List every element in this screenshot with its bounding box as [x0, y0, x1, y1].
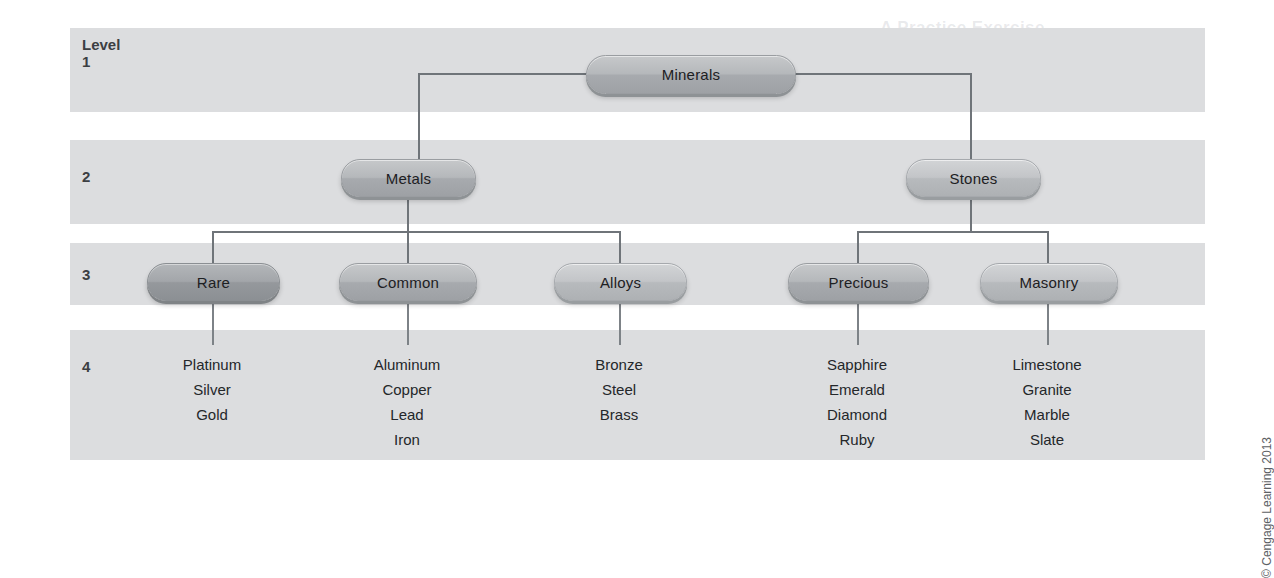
list-item: Bronze	[539, 352, 699, 377]
list-item: Marble	[967, 402, 1127, 427]
node-masonry[interactable]: Masonry	[980, 263, 1118, 301]
connector-stones-stem	[970, 196, 972, 232]
connector-metals-drop-alloys	[619, 231, 621, 264]
connector-precious-to-leaves	[857, 300, 859, 345]
node-common[interactable]: Common	[339, 263, 477, 301]
node-minerals[interactable]: Minerals	[586, 55, 796, 94]
list-item: Sapphire	[777, 352, 937, 377]
connector-alloys-to-leaves	[619, 300, 621, 345]
node-metals[interactable]: Metals	[341, 159, 476, 197]
list-item: Limestone	[967, 352, 1127, 377]
list-item: Diamond	[777, 402, 937, 427]
connector-root-right-horizontal	[794, 73, 972, 75]
node-stones[interactable]: Stones	[906, 159, 1041, 197]
list-item: Silver	[132, 377, 292, 402]
connector-stones-drop-precious	[857, 231, 859, 264]
leaf-list-masonry: Limestone Granite Marble Slate	[967, 352, 1127, 452]
list-item: Emerald	[777, 377, 937, 402]
copyright-credit: © Cengage Learning 2013	[1260, 437, 1274, 578]
level-label-1: Level 1	[82, 36, 120, 71]
connector-root-left-horizontal	[418, 73, 586, 75]
connector-masonry-to-leaves	[1047, 300, 1049, 345]
list-item: Aluminum	[327, 352, 487, 377]
list-item: Copper	[327, 377, 487, 402]
level-label-4: 4	[82, 358, 90, 375]
node-alloys[interactable]: Alloys	[554, 263, 687, 301]
level-label-3: 3	[82, 266, 90, 283]
connector-metals-drop-rare	[212, 231, 214, 264]
level-number-3: 3	[82, 266, 90, 283]
connector-metals-stem	[407, 196, 409, 232]
level-word: Level	[82, 36, 120, 53]
connector-metals-drop-common	[407, 231, 409, 264]
node-precious[interactable]: Precious	[788, 263, 929, 301]
connector-root-left-vertical	[418, 73, 420, 173]
list-item: Gold	[132, 402, 292, 427]
list-item: Granite	[967, 377, 1127, 402]
list-item: Brass	[539, 402, 699, 427]
level-number-1: 1	[82, 53, 120, 70]
level-number-4: 4	[82, 358, 90, 375]
connector-stones-drop-masonry	[1047, 231, 1049, 264]
list-item: Ruby	[777, 427, 937, 452]
leaf-list-alloys: Bronze Steel Brass	[539, 352, 699, 427]
connector-root-right-vertical	[970, 73, 972, 173]
connector-rare-to-leaves	[212, 300, 214, 345]
leaf-list-common: Aluminum Copper Lead Iron	[327, 352, 487, 452]
list-item: Lead	[327, 402, 487, 427]
list-item: Platinum	[132, 352, 292, 377]
list-item: Iron	[327, 427, 487, 452]
leaf-list-rare: Platinum Silver Gold	[132, 352, 292, 427]
node-rare[interactable]: Rare	[147, 263, 280, 301]
list-item: Slate	[967, 427, 1127, 452]
connector-common-to-leaves	[407, 300, 409, 345]
level-label-2: 2	[82, 168, 90, 185]
leaf-list-precious: Sapphire Emerald Diamond Ruby	[777, 352, 937, 452]
list-item: Steel	[539, 377, 699, 402]
connector-metals-bus	[212, 231, 620, 233]
level-number-2: 2	[82, 168, 90, 185]
connector-stones-bus	[857, 231, 1049, 233]
